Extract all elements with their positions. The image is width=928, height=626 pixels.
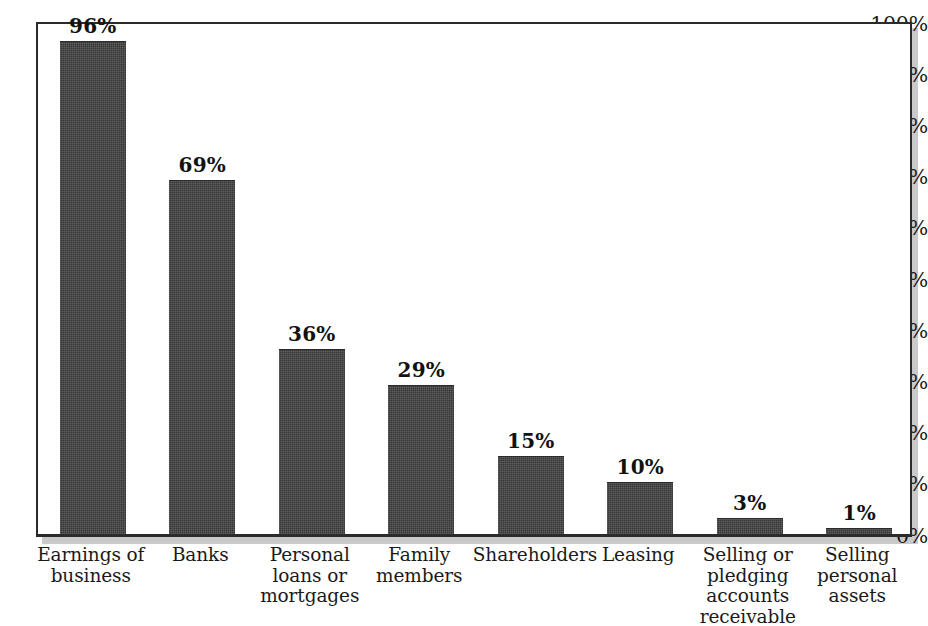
bar-value-label: 10% (595, 457, 685, 477)
x-axis-category-label: Selling personal assets (801, 545, 913, 607)
x-axis-category-label: Earnings of business (35, 545, 147, 586)
bar (826, 528, 892, 534)
bar (60, 41, 126, 534)
bar-value-label: 96% (48, 16, 138, 36)
plot-area: 96%69%36%29%15%10%3%1% (36, 22, 912, 537)
bar-value-label: 69% (157, 155, 247, 175)
x-axis-category-label: Family members (363, 545, 475, 586)
x-axis-category-label: Selling or pledging accounts receivable (692, 545, 804, 626)
x-axis-category-label: Leasing (582, 545, 694, 566)
bar (169, 180, 235, 534)
bar (279, 349, 345, 534)
bar-value-label: 15% (486, 431, 576, 451)
x-axis-category-label: Banks (144, 545, 256, 566)
x-axis-category-label: Personal loans or mortgages (254, 545, 366, 607)
bar (607, 482, 673, 534)
bar (498, 456, 564, 534)
bar-chart: 0%10%20%30%40%50%60%70%80%90%100% 96%69%… (0, 0, 928, 626)
bar (717, 518, 783, 534)
bar-value-label: 29% (376, 360, 466, 380)
bar-value-label: 36% (267, 324, 357, 344)
bar-value-label: 3% (705, 493, 795, 513)
bar (388, 385, 454, 534)
bar-value-label: 1% (814, 503, 904, 523)
x-axis-category-label: Shareholders (473, 545, 585, 566)
